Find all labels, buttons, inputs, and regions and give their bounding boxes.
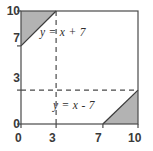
x-axis-label-7: 7: [95, 132, 102, 144]
equation-label-upper: y = x + 7: [40, 26, 86, 38]
y-axis-label-10: 10: [7, 5, 20, 17]
x-axis-label-10: 10: [128, 132, 141, 144]
x-axis-label-0: 0: [15, 132, 22, 144]
y-axis-label-0: 0: [13, 118, 20, 130]
graph-figure: 10 7 3 0 0 3 7 10 y = x + 7 y = x - 7: [0, 0, 153, 151]
equation-label-lower: y = x - 7: [53, 99, 95, 111]
y-axis-label-3: 3: [13, 72, 20, 84]
y-axis-label-7: 7: [13, 32, 20, 44]
x-axis-label-3: 3: [49, 132, 56, 144]
coordinate-plane-svg: [0, 0, 153, 151]
